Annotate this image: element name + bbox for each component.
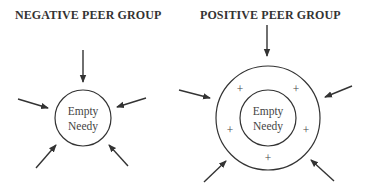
negative-group: Empty Needy xyxy=(18,50,146,168)
arrow-left-icon xyxy=(179,90,210,98)
plus-icon: + xyxy=(265,152,272,164)
center-label-empty: Empty xyxy=(68,105,99,118)
center-label-needy: Needy xyxy=(68,120,98,133)
arrow-left-icon xyxy=(18,99,48,108)
arrow-bottom-left-icon xyxy=(36,145,56,168)
arrow-bottom-right-icon xyxy=(311,160,334,181)
arrow-bottom-left-icon xyxy=(204,161,226,182)
plus-icon: + xyxy=(303,124,310,136)
plus-icon: + xyxy=(237,83,244,95)
center-label-needy: Needy xyxy=(253,120,283,133)
self-circle xyxy=(55,90,111,146)
arrow-right-icon xyxy=(117,98,146,107)
center-label-empty: Empty xyxy=(253,105,284,118)
peer-group-diagram: Empty Needy Empty Needy + + + + + xyxy=(0,0,368,196)
arrow-bottom-right-icon xyxy=(109,145,128,166)
self-circle xyxy=(240,90,296,146)
arrow-right-icon xyxy=(325,86,352,97)
positive-group: Empty Needy + + + + + xyxy=(179,25,352,182)
plus-icon: + xyxy=(227,124,234,136)
plus-icon: + xyxy=(293,83,300,95)
